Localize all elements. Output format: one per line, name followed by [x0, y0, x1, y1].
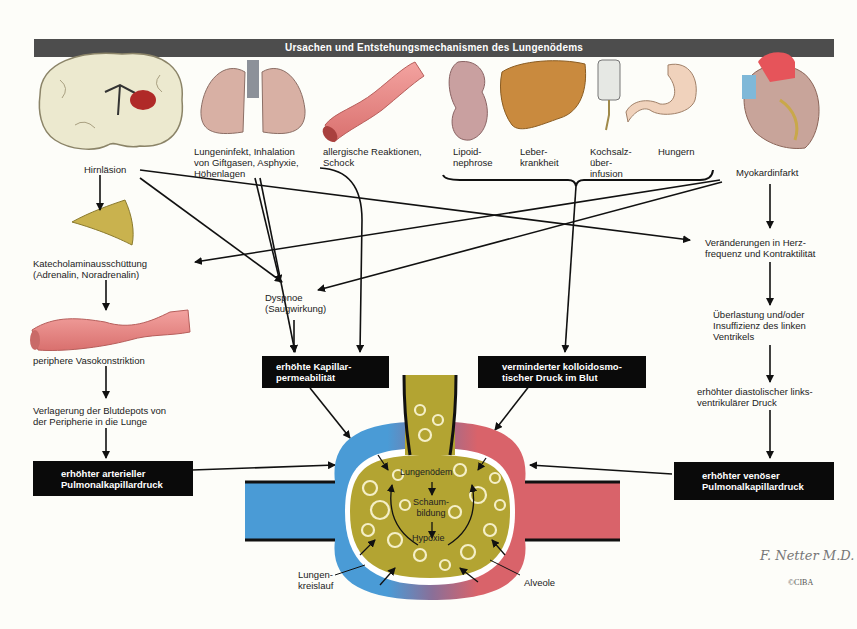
label-lungeninfekt: Lungeninfekt, Inhalation von Giftgasen, … [194, 146, 299, 179]
heart-illustration [742, 52, 819, 148]
label-alveole: Alveole [524, 577, 555, 588]
label-diastolischer-druck: erhöhter diastolischer links- ventrikulä… [697, 386, 813, 408]
label-lungenoedem: Lungenödem [400, 467, 453, 478]
label-verlagerung-blutdepots: Verlagerung der Blutdepots von der Perip… [33, 405, 166, 427]
label-hungern: Hungern [658, 146, 694, 157]
label-hirnlaesion: Hirnläsion [84, 164, 126, 175]
liver-illustration [500, 61, 585, 129]
constricted-vessel-illustration [30, 310, 190, 351]
stomach-illustration [626, 64, 696, 122]
label-dyspnoe: Dyspnoe (Saugwirkung) [265, 292, 326, 314]
label-leberkrankheit: Leber- krankheit [520, 146, 559, 168]
label-lipoidnephrose: Lipoid- nephrose [453, 146, 493, 168]
copyright-mark: ©CIBA [788, 578, 813, 587]
label-lungenkreislauf: Lungen- kreislauf [298, 569, 333, 591]
label-katecholaminausschuettung: Katecholaminausschüttung (Adrenalin, Nor… [33, 258, 147, 280]
box-venoeser-pulmonalkapillardruck: erhöhter venöser Pulmonalkapillardruck [674, 462, 834, 500]
brain-illustration [39, 53, 182, 149]
box-kolloidosmotischer-druck: verminderter kolloidosmo- tischer Druck … [478, 356, 646, 388]
label-allergische-reaktionen: allergische Reaktionen, Schock [323, 146, 422, 168]
label-schaumbildung: Schaum- bildung [413, 497, 449, 519]
label-herzfrequenz-kontraktilitaet: Veränderungen in Herz- frequenz und Kont… [705, 237, 815, 259]
lungs-illustration [201, 60, 305, 134]
box-arterieller-pulmonalkapillardruck: erhöhter arterieller Pulmonalkapillardru… [33, 461, 193, 496]
adrenal-gland-illustration [72, 200, 133, 245]
artist-signature: F. Netter M.D. [760, 548, 854, 563]
bracket [443, 170, 713, 186]
label-ueberlastung-insuffizienz: Überlastung und/oder Insuffizienz des li… [713, 309, 806, 342]
label-myokardinfarkt: Myokardinfarkt [736, 167, 798, 178]
label-hypoxie: Hypoxie [412, 533, 445, 544]
box-kapillarpermeabilitaet: erhöhte Kapillar- permeabilität [262, 356, 389, 388]
alveolus-diagram [245, 375, 620, 600]
label-periphere-vasokonstriktion: periphere Vasokonstriktion [33, 355, 145, 366]
kidney-illustration [449, 61, 487, 140]
label-kochsalzueberinfusion: Kochsalz- über- infusion [590, 146, 632, 179]
iv-bottle-illustration [598, 60, 620, 130]
vessel-illustration [320, 62, 424, 145]
